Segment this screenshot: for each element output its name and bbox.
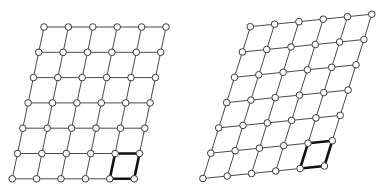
lattice-node — [208, 150, 215, 157]
lattice-node — [288, 44, 295, 51]
lattice-node — [336, 39, 343, 46]
lattice-node — [248, 97, 255, 104]
lattice-edge — [39, 27, 44, 52]
lattice-node — [58, 176, 65, 183]
lattice-edge — [332, 42, 340, 67]
lattice-node — [117, 125, 124, 132]
lattice-node — [152, 74, 159, 81]
lattice-edge — [115, 128, 120, 153]
lattice-node — [128, 74, 135, 81]
lattice-edge — [101, 78, 106, 103]
lattice-edge — [291, 22, 299, 47]
left-lattice — [9, 24, 169, 182]
lattice-edge — [211, 128, 219, 153]
lattice-node — [305, 140, 312, 147]
lattice-node — [239, 49, 246, 56]
lattice-edge — [356, 40, 364, 65]
lattice-node — [25, 100, 32, 107]
lattice-edge — [91, 128, 96, 153]
lattice-node — [321, 163, 328, 170]
lattice-node — [369, 11, 376, 18]
lattice-node — [361, 36, 368, 43]
lattice-edge — [348, 65, 356, 90]
right-lattice — [200, 11, 376, 182]
lattice-edge — [332, 115, 340, 140]
lattice-node — [39, 150, 46, 157]
lattice-node — [93, 125, 100, 132]
lattice-node — [55, 74, 62, 81]
lattice-edge — [12, 154, 17, 179]
lattice-edge — [242, 27, 250, 52]
lattice-edge — [150, 78, 155, 103]
lattice-node — [30, 74, 37, 81]
lattice-node — [280, 142, 287, 149]
lattice-node — [264, 120, 271, 127]
lattice-node — [329, 137, 336, 144]
lattice-edge — [72, 103, 77, 128]
lattice-node — [247, 23, 254, 30]
lattice-node — [345, 87, 352, 94]
lattice-node — [271, 21, 278, 28]
lattice-node — [136, 150, 143, 157]
lattice-node — [20, 125, 27, 132]
lattice-edge — [364, 14, 372, 39]
lattice-node — [344, 13, 351, 20]
lattice-edge — [259, 123, 267, 148]
lattice-node — [273, 168, 280, 175]
lattice-node — [14, 150, 21, 157]
lattice-node — [41, 24, 48, 31]
lattice-node — [142, 125, 149, 132]
lattice-edge — [53, 78, 58, 103]
lattice-edge — [77, 78, 82, 103]
lattice-edge — [161, 27, 166, 52]
lattice-node — [232, 147, 239, 154]
lattice-node — [353, 62, 360, 69]
lattice-node — [255, 72, 262, 79]
lattice-edge — [308, 118, 316, 143]
lattice-edge — [33, 52, 38, 77]
lattice-edge — [235, 125, 243, 150]
lattice-node — [87, 150, 94, 157]
lattice-edge — [145, 103, 150, 128]
lattice-edge — [275, 72, 283, 97]
lattice-edge — [252, 148, 260, 173]
lattice-edge — [284, 120, 292, 145]
lattice-node — [9, 176, 16, 183]
lattice-edge — [61, 154, 66, 179]
lattice-node — [112, 150, 119, 157]
lattice-edge — [82, 52, 87, 77]
lattice-node — [103, 74, 110, 81]
lattice-node — [231, 74, 238, 81]
lattice-node — [224, 173, 231, 180]
lattice-node — [256, 145, 263, 152]
lattice-edge — [235, 52, 243, 77]
lattice-edge — [96, 103, 101, 128]
lattice-node — [60, 49, 67, 56]
lattice-node — [90, 24, 97, 31]
lattice-edge — [283, 47, 291, 72]
lattice-edge — [155, 52, 160, 77]
lattice-node — [138, 24, 145, 31]
lattice-node — [49, 100, 56, 107]
lattice-node — [321, 89, 328, 96]
lattice-edge — [267, 24, 275, 49]
lattice-edge — [316, 93, 324, 118]
lattice-node — [337, 112, 344, 119]
lattice-edge — [28, 78, 33, 103]
lattice-node — [131, 176, 138, 183]
lattice-node — [296, 92, 303, 99]
lattice-node — [147, 100, 154, 107]
lattice-node — [74, 100, 81, 107]
lattice-node — [200, 175, 207, 182]
lattice-node — [107, 176, 114, 183]
lattice-node — [272, 94, 279, 101]
lattice-node — [312, 41, 319, 48]
lattice-edge — [88, 27, 93, 52]
lattice-edge — [66, 128, 71, 153]
lattice-edge — [23, 103, 28, 128]
lattice-edge — [227, 151, 235, 176]
lattice-edge — [112, 27, 117, 52]
lattice-edge — [292, 95, 300, 120]
highlighted-cell-edge — [324, 141, 332, 166]
lattice-edge — [136, 27, 141, 52]
